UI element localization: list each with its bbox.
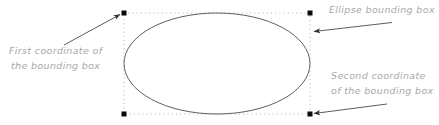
arrow-first-coordinate bbox=[64, 15, 120, 46]
bottom-right-handle[interactable] bbox=[308, 112, 313, 117]
label-first-coordinate-line1: First coordinate of bbox=[9, 43, 102, 58]
top-right-handle[interactable] bbox=[308, 11, 313, 16]
bounding-box-rect bbox=[124, 13, 310, 114]
label-second-coordinate-line2: of the bounding box bbox=[331, 83, 434, 98]
label-first-coordinate-line2: the bounding box bbox=[9, 58, 102, 73]
bottom-left-handle[interactable] bbox=[122, 112, 127, 117]
arrow-second-coordinate bbox=[314, 104, 387, 114]
label-second-coordinate: Second coordinate of the bounding box bbox=[331, 68, 434, 98]
top-left-handle[interactable] bbox=[122, 11, 127, 16]
label-ellipse-bounding-box-line1: Ellipse bounding box bbox=[329, 2, 435, 17]
label-first-coordinate: First coordinate of the bounding box bbox=[9, 43, 102, 73]
ellipse-shape bbox=[124, 13, 310, 114]
label-ellipse-bounding-box: Ellipse bounding box bbox=[329, 2, 435, 17]
label-second-coordinate-line1: Second coordinate bbox=[331, 68, 434, 83]
ellipse-bounding-box-diagram: First coordinate of the bounding box Ell… bbox=[0, 0, 439, 125]
arrow-ellipse-bounding-box bbox=[314, 23, 392, 32]
